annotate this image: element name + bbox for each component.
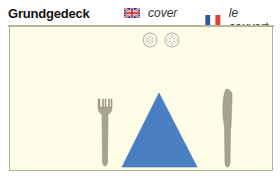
english-term: cover: [148, 6, 177, 20]
france-flag-icon: [205, 15, 221, 25]
fork-icon: [98, 99, 112, 166]
language-english: cover: [124, 6, 177, 20]
napkin-icon: [122, 93, 197, 167]
pepper-shaker-icon: [165, 33, 179, 47]
page-title: Grundgedeck: [8, 6, 90, 21]
header: Grundgedeck cover le couvert: [0, 0, 280, 26]
place-setting-illustration: [9, 27, 273, 171]
knife-icon: [223, 89, 232, 167]
uk-flag-icon: [124, 8, 140, 18]
salt-shaker-icon: [143, 33, 157, 47]
